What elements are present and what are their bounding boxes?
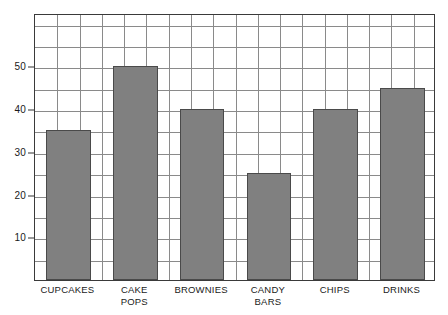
plot-area [34,14,435,281]
y-tick-mark [28,238,34,239]
y-axis: 1020304050 [0,0,26,315]
bar-brownies [180,109,225,280]
y-tick-label: 30 [0,148,26,158]
y-tick-mark [28,110,34,111]
y-tick-mark [28,195,34,196]
bar-cupcakes [46,130,91,280]
gridline-horizontal [35,111,434,112]
gridline-horizontal [35,197,434,198]
bar-candy-bars [247,173,292,280]
gridline-horizontal [35,218,434,219]
gridline-horizontal [35,261,434,262]
gridline-vertical [236,15,237,280]
x-tick-label: CANDY BARS [251,284,285,307]
gridline-vertical [369,15,370,280]
gridline-horizontal [35,175,434,176]
bar-chart: 1020304050 CUPCAKESCAKE POPSBROWNIESCAND… [0,0,448,315]
gridline-vertical [102,15,103,280]
gridline-horizontal [35,154,434,155]
x-tick-label: BROWNIES [174,284,227,296]
gridline-horizontal [35,132,434,133]
y-tick-label: 10 [0,233,26,243]
x-tick-label: CHIPS [320,284,350,296]
y-tick-mark [28,67,34,68]
gridline-vertical [302,15,303,280]
gridline-vertical [169,15,170,280]
bar-cake-pops [113,66,158,280]
x-tick-label: CAKE POPS [121,284,148,307]
gridline-horizontal [35,239,434,240]
y-tick-label: 20 [0,191,26,201]
y-tick-label: 50 [0,62,26,72]
gridline-horizontal [35,90,434,91]
x-axis: CUPCAKESCAKE POPSBROWNIESCANDY BARSCHIPS… [34,284,435,315]
y-tick-label: 40 [0,105,26,115]
y-tick-mark [28,152,34,153]
x-tick-label: CUPCAKES [40,284,94,296]
gridline-horizontal [35,68,434,69]
gridline-horizontal [35,47,434,48]
x-tick-label: DRINKS [383,284,420,296]
gridline-horizontal [35,26,434,27]
bar-drinks [380,88,425,280]
bar-chips [313,109,358,280]
